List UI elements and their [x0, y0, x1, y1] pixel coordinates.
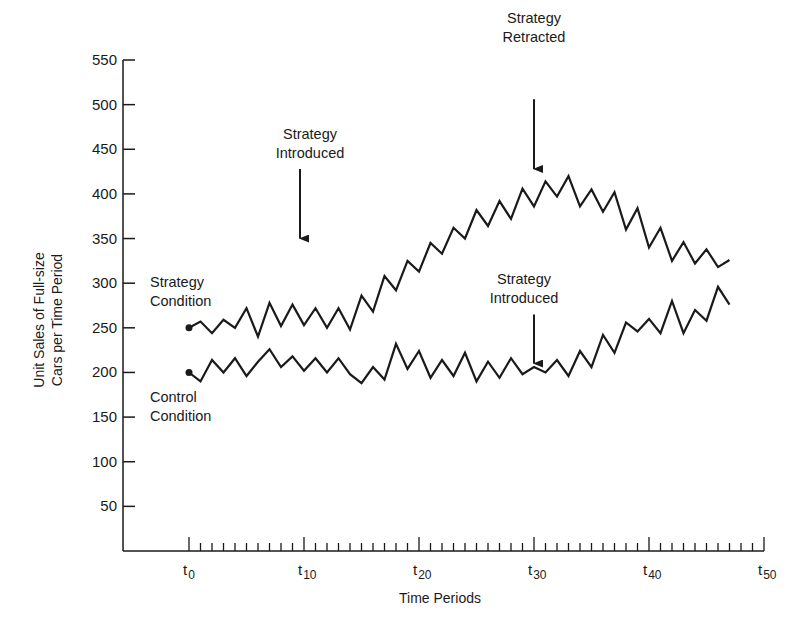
strategy-condition-label: Strategy	[150, 274, 205, 290]
x-tick-label: t50	[758, 561, 777, 582]
series-layer	[186, 176, 730, 383]
y-tick-label: 350	[92, 230, 117, 247]
y-tick-label: 450	[92, 140, 117, 157]
y-tick-label: 250	[92, 319, 117, 336]
y-tick-label: 200	[92, 363, 117, 380]
control-condition-label: Control	[150, 389, 197, 405]
annotation-label: Strategy	[497, 271, 552, 287]
line-chart: 50100150200250300350400450500550Unit Sal…	[0, 0, 795, 628]
x-tick-label: t10	[298, 561, 317, 582]
labels-layer: Time Periods StrategyConditionControlCon…	[150, 274, 481, 606]
y-tick-label: 150	[92, 408, 117, 425]
y-axis: 50100150200250300350400450500550Unit Sal…	[31, 51, 135, 551]
series-start-dot	[186, 324, 193, 331]
annotation-label: Strategy	[507, 10, 562, 26]
y-axis-title-line: Unit Sales of Full-size	[31, 252, 47, 388]
x-tick-label: t40	[643, 561, 662, 582]
series-start-dot	[186, 369, 193, 376]
control-condition-line	[189, 287, 730, 383]
strategy-condition-line	[189, 176, 730, 337]
control-condition-label: Condition	[150, 408, 211, 424]
annotation-label: Introduced	[490, 290, 559, 306]
x-tick-label: t0	[183, 561, 195, 582]
annotation-layer: StrategyIntroducedStrategyRetractedStrat…	[276, 10, 566, 364]
x-tick-label: t20	[413, 561, 432, 582]
y-tick-label: 400	[92, 185, 117, 202]
strategy-condition-label: Condition	[150, 293, 211, 309]
x-axis-title: Time Periods	[399, 590, 481, 606]
y-tick-label: 550	[92, 51, 117, 68]
annotation-label: Retracted	[503, 29, 566, 45]
y-axis-title-line: Cars per Time Period	[49, 254, 65, 386]
y-tick-label: 500	[92, 96, 117, 113]
y-tick-label: 300	[92, 274, 117, 291]
annotation-label: Introduced	[276, 145, 345, 161]
y-axis-title: Unit Sales of Full-sizeCars per Time Per…	[31, 252, 65, 388]
annotation-label: Strategy	[283, 126, 338, 142]
x-tick-label: t30	[528, 561, 547, 582]
x-axis: t0t10t20t30t40t50	[123, 537, 777, 582]
y-tick-label: 100	[92, 453, 117, 470]
y-tick-label: 50	[100, 497, 117, 514]
